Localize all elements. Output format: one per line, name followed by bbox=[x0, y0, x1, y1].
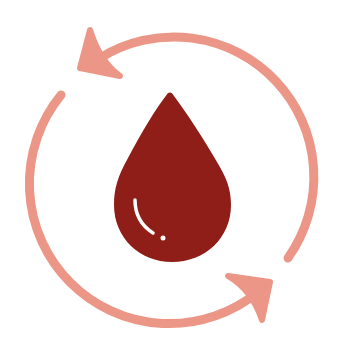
drop-highlight-dot bbox=[161, 236, 166, 241]
blood-drop-icon bbox=[114, 92, 231, 262]
blood-cycle-icon bbox=[0, 0, 341, 343]
bottom-arrowhead-icon bbox=[228, 276, 270, 320]
blood-cycle-illustration bbox=[0, 0, 341, 343]
